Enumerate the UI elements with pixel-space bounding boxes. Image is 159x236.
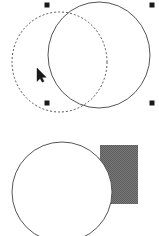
solid-circle[interactable] xyxy=(48,2,150,108)
handle-bottom-left[interactable] xyxy=(45,101,50,106)
handle-top-left[interactable] xyxy=(45,3,50,8)
white-circle[interactable] xyxy=(12,142,112,236)
shapes-vector-layer xyxy=(0,0,159,236)
bottom-group[interactable] xyxy=(12,142,138,236)
mouse-pointer-icon xyxy=(37,68,46,82)
top-selected-group[interactable] xyxy=(12,2,150,112)
handle-top-right[interactable] xyxy=(150,3,155,8)
dashed-circle[interactable] xyxy=(12,12,107,112)
drawing-canvas[interactable] xyxy=(0,0,159,236)
handle-bottom-right[interactable] xyxy=(150,101,155,106)
